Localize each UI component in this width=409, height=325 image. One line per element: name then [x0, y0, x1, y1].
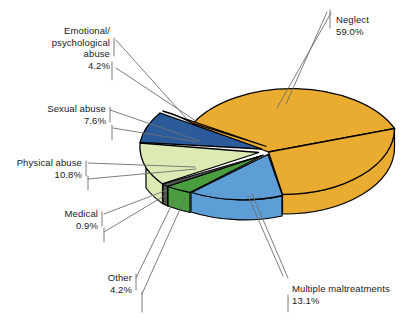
slice-label-medical: Medical 0.9% — [0, 208, 98, 231]
slice-label-emotional: Emotional/ psychological abuse 4.2% — [0, 25, 110, 71]
leader-line-medical-a — [104, 190, 167, 214]
leader-line-other-a — [136, 200, 174, 278]
slice-label-neglect: Neglect 59.0% — [336, 14, 369, 37]
slice-label-neglect-value: 59.0% — [336, 26, 369, 38]
slice-label-emotional-name-3: abuse — [0, 48, 110, 60]
slice-label-sexual: Sexual abuse 7.6% — [0, 103, 106, 126]
leader-line-other-b — [142, 198, 185, 294]
slice-label-other: Other 4.2% — [0, 272, 132, 295]
slice-label-emotional-value: 4.2% — [0, 60, 110, 72]
slice-label-multiple-name: Multiple maltreatments — [292, 283, 390, 295]
slice-label-sexual-name: Sexual abuse — [0, 103, 106, 115]
slice-label-physical-name: Physical abuse — [0, 157, 82, 169]
slice-label-physical: Physical abuse 10.8% — [0, 157, 82, 180]
slice-label-multiple: Multiple maltreatments 13.1% — [292, 283, 390, 306]
slice-label-other-value: 4.2% — [0, 284, 132, 296]
slice-label-medical-value: 0.9% — [0, 220, 98, 232]
pie-chart-figure: Neglect 59.0% Emotional/ psychological a… — [0, 0, 409, 325]
slice-side-medical — [163, 184, 168, 206]
slice-label-neglect-name: Neglect — [336, 14, 369, 26]
slice-label-sexual-value: 7.6% — [0, 115, 106, 127]
leader-line-medical-b — [104, 196, 164, 232]
leader-line-emotional-a — [116, 40, 186, 118]
slice-label-other-name: Other — [0, 272, 132, 284]
slice-label-emotional-name-1: Emotional/ — [0, 25, 110, 37]
slice-label-multiple-value: 13.1% — [292, 295, 390, 307]
slice-label-medical-name: Medical — [0, 208, 98, 220]
slice-label-physical-value: 10.8% — [0, 169, 82, 181]
figure-caption — [0, 314, 409, 324]
slice-label-emotional-name-2: psychological — [0, 37, 110, 49]
